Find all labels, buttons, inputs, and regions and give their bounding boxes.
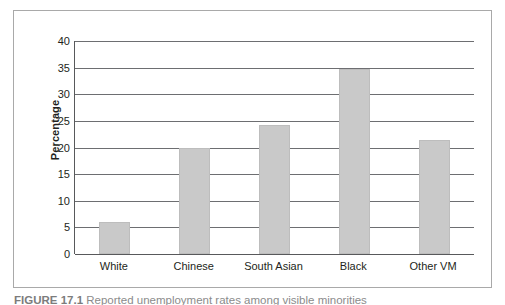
plot-wrapper: Percentage 0510152025303540 WhiteChinese… bbox=[14, 11, 491, 287]
figure-caption: FIGURE 17.1 Reported unemployment rates … bbox=[14, 294, 494, 305]
bars-layer bbox=[75, 41, 474, 254]
plot-area bbox=[74, 41, 474, 254]
bar-chinese bbox=[179, 148, 210, 255]
y-tick-label-40: 40 bbox=[42, 36, 70, 47]
chart-frame: Percentage 0510152025303540 WhiteChinese… bbox=[13, 10, 492, 288]
y-tick-label-0: 0 bbox=[42, 249, 70, 260]
bar-other-vm bbox=[419, 140, 450, 254]
x-tick-label-other-vm: Other VM bbox=[410, 260, 457, 273]
bar-black bbox=[339, 69, 370, 254]
figure-caption-label: FIGURE 17.1 bbox=[14, 294, 83, 305]
gridline-0 bbox=[75, 254, 474, 255]
x-tick-label-black: Black bbox=[340, 260, 367, 273]
y-tick-label-10: 10 bbox=[42, 195, 70, 206]
y-tick-label-25: 25 bbox=[42, 115, 70, 126]
x-tick-label-white: White bbox=[100, 260, 128, 273]
figure-root: Percentage 0510152025303540 WhiteChinese… bbox=[0, 0, 505, 305]
y-tick-label-30: 30 bbox=[42, 89, 70, 100]
y-tick-label-5: 5 bbox=[42, 222, 70, 233]
bar-south-asian bbox=[259, 125, 290, 254]
x-tick-label-chinese: Chinese bbox=[174, 260, 214, 273]
y-tick-label-20: 20 bbox=[42, 142, 70, 153]
figure-caption-text: Reported unemployment rates among visibl… bbox=[86, 294, 367, 305]
x-axis-tick-labels: WhiteChineseSouth AsianBlackOther VM bbox=[74, 260, 473, 280]
y-axis-tick-labels: 0510152025303540 bbox=[42, 11, 70, 289]
x-tick-label-south-asian: South Asian bbox=[244, 260, 303, 273]
y-tick-label-15: 15 bbox=[42, 169, 70, 180]
bar-white bbox=[99, 222, 130, 254]
y-tick-label-35: 35 bbox=[42, 62, 70, 73]
